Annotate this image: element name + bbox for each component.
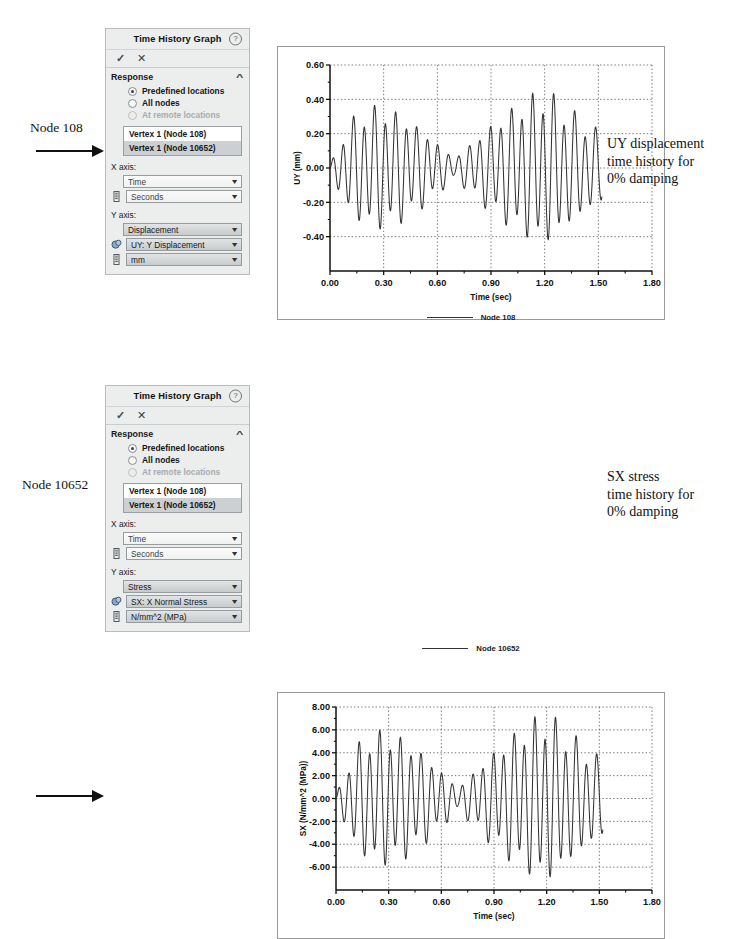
x-axis-quantity-select[interactable]: Time ▼ [123, 175, 242, 188]
chevron-up-icon[interactable]: ^ [236, 72, 243, 82]
chevron-down-icon[interactable]: ▼ [230, 226, 239, 233]
chevron-down-icon[interactable]: ▼ [230, 598, 239, 605]
annotation-node-10652: Node 10652 [22, 477, 88, 493]
chart-frame-2: -6.00-4.00-2.000.002.004.006.008.000.000… [277, 692, 665, 939]
svg-text:1.20: 1.20 [536, 278, 554, 288]
y-axis-component-select[interactable]: UY: Y Displacement ▼ [126, 238, 242, 251]
panel-spacer [106, 624, 249, 631]
y-axis-units-row[interactable]: mm ▼ [106, 252, 249, 267]
time-history-graph-panel-1[interactable]: Time History Graph ? ✓ ✕ Response ^ Pred… [105, 28, 250, 275]
page-title: Time History Graph [134, 391, 222, 401]
legend-label: Node 108 [481, 313, 516, 322]
y-axis-quantity-row[interactable]: Displacement ▼ [106, 222, 249, 237]
list-item[interactable]: Vertex 1 (Node 10652) [124, 498, 241, 512]
x-axis-units-select[interactable]: Seconds ▼ [126, 547, 242, 560]
annotation-line-1: SX stress [607, 468, 694, 486]
y-axis-units-row[interactable]: N/mm^2 (MPa) ▼ [106, 609, 249, 624]
chevron-down-icon[interactable]: ▼ [230, 550, 239, 557]
radio-label: All nodes [142, 455, 180, 465]
x-axis-quantity-row[interactable]: Time ▼ [106, 531, 249, 546]
x-axis-quantity-row[interactable]: Time ▼ [106, 174, 249, 189]
svg-text:4.00: 4.00 [312, 748, 330, 758]
chart-legend-2: Node 10652 [277, 644, 665, 653]
list-item[interactable]: Vertex 1 (Node 108) [124, 484, 241, 498]
radio-all-nodes[interactable]: All nodes [106, 97, 249, 109]
response-section-header[interactable]: Response ^ [106, 68, 249, 85]
arrow-head [92, 790, 104, 802]
radio-at-remote-locations: At remote locations [106, 109, 249, 121]
x-axis-units-value: Seconds [131, 549, 163, 559]
svg-text:0.60: 0.60 [432, 897, 450, 907]
legend-line-swatch [422, 648, 468, 650]
time-history-graph-panel-2[interactable]: Time History Graph ? ✓ ✕ Response ^ Pred… [105, 385, 250, 632]
cancel-button[interactable]: ✕ [137, 53, 146, 64]
location-listbox[interactable]: Vertex 1 (Node 108) Vertex 1 (Node 10652… [123, 126, 242, 156]
page-title: Time History Graph [134, 34, 222, 44]
help-icon[interactable]: ? [229, 33, 242, 46]
svg-text:Time (sec): Time (sec) [473, 911, 514, 921]
x-axis-quantity-select[interactable]: Time ▼ [123, 532, 242, 545]
svg-text:0.60: 0.60 [306, 60, 324, 70]
y-axis-quantity-row[interactable]: Stress ▼ [106, 579, 249, 594]
x-axis-quantity-value: Time [128, 534, 146, 544]
location-listbox[interactable]: Vertex 1 (Node 108) Vertex 1 (Node 10652… [123, 483, 242, 513]
svg-text:0.40: 0.40 [306, 95, 324, 105]
radio-predefined-locations[interactable]: Predefined locations [106, 85, 249, 97]
radio-indicator [128, 456, 137, 465]
cancel-button[interactable]: ✕ [137, 410, 146, 421]
list-item[interactable]: Vertex 1 (Node 10652) [124, 141, 241, 155]
y-axis-units-select[interactable]: mm ▼ [126, 253, 242, 266]
radio-indicator [128, 87, 137, 96]
panel-header: Time History Graph ? [106, 386, 249, 407]
x-axis-units-select[interactable]: Seconds ▼ [126, 190, 242, 203]
svg-text:6.00: 6.00 [312, 725, 330, 735]
annotation-line-2: time history for [607, 486, 694, 504]
y-axis-component-row[interactable]: UY: Y Displacement ▼ [106, 237, 249, 252]
units-icon [111, 191, 122, 202]
radio-predefined-locations[interactable]: Predefined locations [106, 442, 249, 454]
accept-button[interactable]: ✓ [116, 410, 125, 421]
y-axis-units-select[interactable]: N/mm^2 (MPa) ▼ [126, 610, 242, 623]
x-axis-units-row[interactable]: Seconds ▼ [106, 546, 249, 561]
annotation-line-3: 0% damping [607, 503, 694, 521]
arrow-right-icon-2 [36, 789, 108, 803]
y-axis-component-select[interactable]: SX: X Normal Stress ▼ [126, 595, 242, 608]
chevron-up-icon[interactable]: ^ [236, 429, 243, 439]
panel-action-bar: ✓ ✕ [106, 407, 249, 425]
svg-text:0.90: 0.90 [485, 897, 503, 907]
svg-text:Time (sec): Time (sec) [470, 292, 511, 302]
arrow-head [92, 145, 104, 157]
units-icon [111, 611, 122, 622]
legend-label: Node 10652 [476, 644, 519, 653]
annotation-line-2: time history for [607, 153, 704, 171]
radio-label: Predefined locations [142, 443, 224, 453]
units-icon [111, 548, 122, 559]
y-axis-quantity-select[interactable]: Stress ▼ [123, 580, 242, 593]
chevron-down-icon[interactable]: ▼ [230, 241, 239, 248]
chevron-down-icon[interactable]: ▼ [230, 178, 239, 185]
legend-line-swatch [427, 317, 473, 319]
chevron-down-icon[interactable]: ▼ [230, 613, 239, 620]
help-icon[interactable]: ? [229, 390, 242, 403]
chevron-down-icon[interactable]: ▼ [230, 256, 239, 263]
accept-button[interactable]: ✓ [116, 53, 125, 64]
svg-text:1.50: 1.50 [590, 897, 608, 907]
list-item[interactable]: Vertex 1 (Node 108) [124, 127, 241, 141]
chevron-down-icon[interactable]: ▼ [230, 583, 239, 590]
svg-text:0.00: 0.00 [327, 897, 345, 907]
radio-all-nodes[interactable]: All nodes [106, 454, 249, 466]
y-axis-quantity-select[interactable]: Displacement ▼ [123, 223, 242, 236]
y-axis-component-row[interactable]: SX: X Normal Stress ▼ [106, 594, 249, 609]
x-axis-units-row[interactable]: Seconds ▼ [106, 189, 249, 204]
chevron-down-icon[interactable]: ▼ [230, 193, 239, 200]
annotation-line-3: 0% damping [607, 170, 704, 188]
svg-text:-4.00: -4.00 [309, 839, 330, 849]
y-axis-units-value: N/mm^2 (MPa) [131, 612, 187, 622]
response-section-header[interactable]: Response ^ [106, 425, 249, 442]
component-icon [111, 239, 122, 250]
y-axis-units-value: mm [131, 255, 145, 265]
svg-text:1.50: 1.50 [589, 278, 607, 288]
radio-indicator [128, 468, 137, 477]
component-icon [111, 596, 122, 607]
chevron-down-icon[interactable]: ▼ [230, 535, 239, 542]
